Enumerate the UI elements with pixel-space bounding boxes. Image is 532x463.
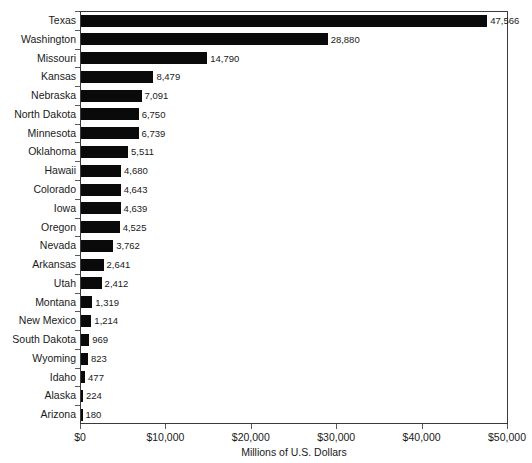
x-axis-tick	[251, 424, 252, 429]
bar-row: Oregon4,525	[0, 218, 532, 237]
bar	[81, 108, 139, 120]
bar-row: Arizona180	[0, 405, 532, 424]
x-axis-tick	[336, 424, 337, 429]
y-axis-tick	[75, 67, 80, 68]
bar-row: Missouri14,790	[0, 49, 532, 68]
bar-value-label: 2,641	[104, 257, 131, 272]
bar-row: Colorado4,643	[0, 180, 532, 199]
bar-value-label: 2,412	[102, 276, 129, 291]
x-axis-tick-label: $20,000	[232, 431, 270, 443]
category-label: Nebraska	[0, 86, 76, 105]
y-axis-tick	[75, 236, 80, 237]
category-label: Idaho	[0, 368, 76, 387]
bar-row: Washington28,880	[0, 30, 532, 49]
y-axis-tick	[75, 49, 80, 50]
bar-row: South Dakota969	[0, 330, 532, 349]
y-axis-tick	[75, 161, 80, 162]
x-axis-tick-label: $0	[74, 431, 86, 443]
bar-row: Wyoming823	[0, 349, 532, 368]
y-axis-tick	[75, 180, 80, 181]
bar-value-label: 28,880	[328, 32, 360, 47]
bar	[81, 71, 153, 83]
y-axis-tick	[75, 11, 80, 12]
bar-row: Minnesota6,739	[0, 124, 532, 143]
y-axis-tick	[75, 311, 80, 312]
y-axis-tick	[75, 368, 80, 369]
category-label: Nevada	[0, 236, 76, 255]
y-axis-tick	[75, 386, 80, 387]
bar	[81, 240, 113, 252]
category-label: Colorado	[0, 180, 76, 199]
y-axis-tick	[75, 30, 80, 31]
bar	[81, 259, 104, 271]
bar	[81, 90, 142, 102]
bar-row: Oklahoma5,511	[0, 142, 532, 161]
bar	[81, 184, 121, 196]
y-axis-tick	[75, 105, 80, 106]
x-axis-tick	[165, 424, 166, 429]
bar-row: Texas47,566	[0, 11, 532, 30]
bar	[81, 127, 139, 139]
x-axis-tick-label: $50,000	[488, 431, 526, 443]
bar	[81, 15, 487, 27]
bar-value-label: 823	[88, 351, 107, 366]
bar-row: Iowa4,639	[0, 199, 532, 218]
bar	[81, 353, 88, 365]
x-axis-tick-label: $40,000	[403, 431, 441, 443]
bar-value-label: 7,091	[142, 88, 169, 103]
y-axis-tick	[75, 293, 80, 294]
y-axis-tick	[75, 199, 80, 200]
category-label: Minnesota	[0, 124, 76, 143]
bar-row: Nebraska7,091	[0, 86, 532, 105]
bar	[81, 146, 128, 158]
category-label: South Dakota	[0, 330, 76, 349]
bar-row: Hawaii4,680	[0, 161, 532, 180]
category-label: Oregon	[0, 218, 76, 237]
bar-value-label: 5,511	[128, 144, 154, 159]
category-label: Hawaii	[0, 161, 76, 180]
bar-value-label: 3,762	[113, 238, 140, 253]
category-label: Texas	[0, 11, 76, 30]
bar-row: Arkansas2,641	[0, 255, 532, 274]
bar	[81, 315, 91, 327]
x-axis-tick-label: $10,000	[146, 431, 184, 443]
y-axis-tick	[75, 218, 80, 219]
y-axis-tick	[75, 124, 80, 125]
category-label: New Mexico	[0, 311, 76, 330]
category-label: Arkansas	[0, 255, 76, 274]
x-axis-tick	[507, 424, 508, 429]
bar-value-label: 1,319	[92, 295, 119, 310]
x-axis-tick	[422, 424, 423, 429]
bar-rows: Texas47,566Washington28,880Missouri14,79…	[0, 11, 532, 424]
bar	[81, 202, 121, 214]
bar-value-label: 4,643	[121, 182, 148, 197]
category-label: Missouri	[0, 49, 76, 68]
bar-value-label: 224	[83, 388, 102, 403]
bar-value-label: 6,750	[139, 107, 166, 122]
bar-value-label: 180	[83, 407, 102, 422]
category-label: Arizona	[0, 405, 76, 424]
category-label: Utah	[0, 274, 76, 293]
bar	[81, 221, 120, 233]
bar-value-label: 969	[89, 332, 108, 347]
bar-row: North Dakota6,750	[0, 105, 532, 124]
bar-value-label: 1,214	[91, 313, 118, 328]
category-label: Washington	[0, 30, 76, 49]
category-label: Iowa	[0, 199, 76, 218]
bar-row: Idaho477	[0, 368, 532, 387]
bar	[81, 33, 328, 45]
bar-value-label: 4,525	[120, 220, 147, 235]
category-label: Wyoming	[0, 349, 76, 368]
y-axis-tick	[75, 330, 80, 331]
category-label: North Dakota	[0, 105, 76, 124]
bar-value-label: 6,739	[139, 126, 166, 141]
category-label: Oklahoma	[0, 142, 76, 161]
bar-row: Utah2,412	[0, 274, 532, 293]
x-axis-title: Millions of U.S. Dollars	[80, 446, 508, 458]
bar	[81, 334, 89, 346]
y-axis-tick	[75, 86, 80, 87]
bar-value-label: 477	[85, 370, 104, 385]
bar-value-label: 4,639	[121, 201, 148, 216]
y-axis-tick	[75, 349, 80, 350]
bar-row: New Mexico1,214	[0, 311, 532, 330]
